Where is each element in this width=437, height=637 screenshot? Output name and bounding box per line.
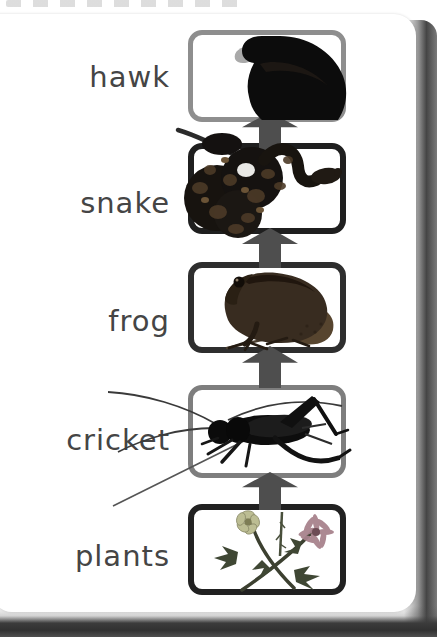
level-label-frog: frog: [108, 304, 170, 338]
image-box-plants: [188, 504, 346, 595]
food-chain-arrow-cricket-to-frog: [238, 346, 302, 388]
food-chain-arrow-snake-to-hawk: [238, 112, 302, 150]
cropped-text-remnant: [6, 0, 240, 7]
image-box-cricket: [188, 385, 346, 478]
level-label-hawk: hawk: [89, 60, 170, 94]
level-label-snake: snake: [80, 186, 170, 220]
image-box-frog: [188, 262, 346, 353]
food-chain-arrow-plants-to-cricket: [238, 472, 302, 510]
level-label-plants: plants: [75, 539, 170, 573]
image-box-hawk: [188, 30, 346, 122]
image-box-snake: [188, 143, 346, 234]
food-chain-arrow-frog-to-snake: [238, 228, 302, 268]
level-label-cricket: cricket: [66, 423, 170, 457]
